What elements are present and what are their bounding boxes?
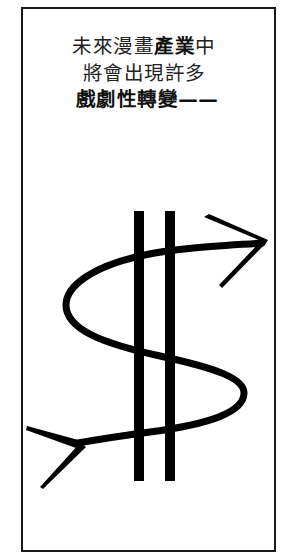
arrowhead-upper bbox=[204, 214, 268, 243]
dollar-sign-arrow-icon bbox=[0, 0, 288, 553]
dollar-bar-left bbox=[134, 211, 144, 481]
tail-branch-upper bbox=[26, 426, 82, 448]
tail-branch-lower bbox=[40, 443, 86, 489]
